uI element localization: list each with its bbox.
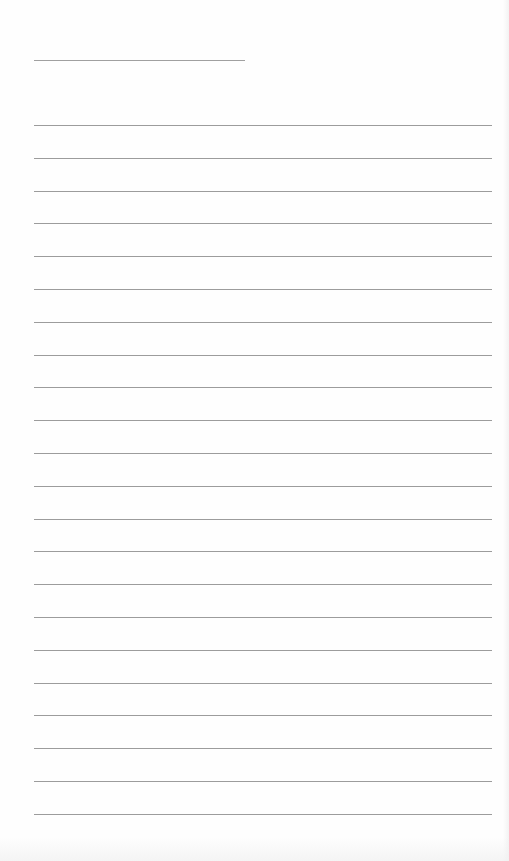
- page-edge-shadow: [503, 0, 509, 861]
- ruled-line: [34, 223, 492, 224]
- ruled-line: [34, 683, 492, 684]
- ruled-line: [34, 191, 492, 192]
- ruled-line: [34, 584, 492, 585]
- ruled-line: [34, 322, 492, 323]
- ruled-line: [34, 715, 492, 716]
- page-bottom-shadow: [0, 837, 509, 861]
- ruled-line: [34, 158, 492, 159]
- ruled-line: [34, 650, 492, 651]
- ruled-line: [34, 355, 492, 356]
- ruled-line: [34, 617, 492, 618]
- ruled-line: [34, 486, 492, 487]
- ruled-line: [34, 453, 492, 454]
- ruled-line: [34, 420, 492, 421]
- ruled-line: [34, 551, 492, 552]
- ruled-line: [34, 256, 492, 257]
- ruled-line: [34, 289, 492, 290]
- ruled-line: [34, 387, 492, 388]
- ruled-line: [34, 781, 492, 782]
- ruled-line: [34, 814, 492, 815]
- ruled-line: [34, 748, 492, 749]
- lined-paper-page: [0, 0, 509, 861]
- ruled-line: [34, 125, 492, 126]
- title-line: [34, 60, 245, 61]
- ruled-line: [34, 519, 492, 520]
